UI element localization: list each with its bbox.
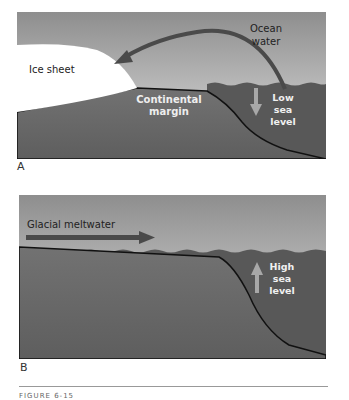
continental-margin-label: Continental margin	[129, 94, 209, 118]
low-sea-level-label: Low sea level	[265, 92, 301, 128]
panel-b-label: B	[20, 361, 28, 374]
caption-divider	[19, 386, 328, 387]
ocean-water-label: Ocean water	[241, 22, 291, 48]
ice-sheet-label: Ice sheet	[29, 64, 75, 75]
panel-a: Ice sheet Ocean water Continental margin…	[17, 12, 326, 159]
high-sea-level-label: High sea level	[263, 261, 301, 297]
meltwater-arrow-shaft	[26, 235, 141, 240]
panel-b: Glacial meltwater High sea level	[19, 195, 326, 359]
panel-a-label: A	[17, 160, 25, 173]
glacial-meltwater-label: Glacial meltwater	[27, 219, 115, 230]
sea-level-up-arrow-shaft	[255, 273, 259, 293]
figure-caption: FIGURE 6-15	[19, 392, 74, 400]
sea-level-down-arrow-shaft	[254, 88, 258, 106]
